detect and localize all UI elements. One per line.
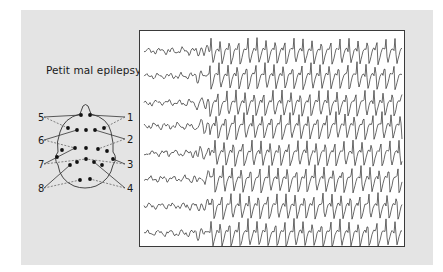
connection-dashed-line-1 bbox=[104, 117, 125, 128]
eeg-channel-trace-5 bbox=[144, 140, 402, 166]
connection-line-5 bbox=[44, 115, 81, 117]
electrode-dot bbox=[78, 178, 82, 182]
channel-label-4: 4 bbox=[127, 183, 133, 194]
eeg-channel-trace-6 bbox=[144, 165, 402, 193]
channel-label-1: 1 bbox=[127, 112, 133, 123]
electrode-dot bbox=[75, 128, 79, 132]
eeg-channel-trace-1 bbox=[144, 38, 402, 65]
electrode-dot bbox=[84, 157, 88, 161]
connection-dashed-line-7 bbox=[44, 159, 86, 164]
channel-label-8: 8 bbox=[38, 183, 44, 194]
electrode-dot bbox=[96, 147, 100, 151]
electrode-dot bbox=[100, 163, 104, 167]
connection-dashed-line-6 bbox=[44, 140, 75, 148]
electrode-dot bbox=[66, 126, 70, 130]
electrode-dot bbox=[88, 113, 92, 117]
electrode-dot bbox=[111, 157, 115, 161]
connection-line-8 bbox=[44, 165, 70, 188]
electrode-dot bbox=[75, 160, 79, 164]
connection-dashed-line-2 bbox=[98, 139, 125, 149]
electrode-dot bbox=[79, 113, 83, 117]
eeg-traces bbox=[140, 31, 404, 246]
connection-line-2 bbox=[95, 130, 125, 139]
electrode-dot bbox=[93, 128, 97, 132]
electrode-dot bbox=[84, 128, 88, 132]
electrode-dot bbox=[102, 126, 106, 130]
electrode-dot bbox=[84, 146, 88, 150]
electrode-dot bbox=[92, 160, 96, 164]
channel-label-3: 3 bbox=[127, 159, 133, 170]
channel-labels: 56781234 bbox=[38, 112, 133, 194]
connection-dashed-line-5 bbox=[44, 117, 68, 128]
eeg-channel-trace-8 bbox=[144, 218, 402, 246]
channel-label-6: 6 bbox=[38, 135, 44, 146]
channel-label-5: 5 bbox=[38, 112, 44, 123]
eeg-channel-trace-3 bbox=[144, 90, 402, 117]
electrode-dot bbox=[105, 149, 109, 153]
channel-label-7: 7 bbox=[38, 159, 44, 170]
electrode-dot bbox=[60, 148, 64, 152]
connection-line-7 bbox=[44, 148, 75, 164]
channel-label-2: 2 bbox=[127, 134, 133, 145]
connection-line-1 bbox=[90, 115, 125, 117]
eeg-channel-trace-2 bbox=[144, 62, 402, 90]
electrode-dot bbox=[88, 177, 92, 181]
electrode-dot bbox=[55, 155, 59, 159]
electrode-dot bbox=[73, 146, 77, 150]
electrode-dot bbox=[68, 163, 72, 167]
connection-dashed-line-8 bbox=[44, 180, 80, 188]
eeg-trace-panel bbox=[139, 30, 405, 247]
eeg-channel-trace-4 bbox=[144, 112, 402, 140]
eeg-channel-trace-7 bbox=[144, 193, 402, 220]
